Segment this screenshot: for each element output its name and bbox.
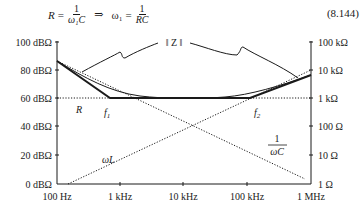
inverse-omega-c-label: 1 ωC [268, 133, 287, 157]
svg-text:0 dBΩ: 0 dBΩ [25, 179, 52, 190]
svg-text:10 kΩ: 10 kΩ [318, 65, 343, 76]
svg-text:100 Hz: 100 Hz [42, 191, 72, 202]
svg-text:100 kΩ: 100 kΩ [318, 37, 348, 48]
svg-text:1 Ω: 1 Ω [318, 179, 333, 190]
left-y-tick-labels: 100 dBΩ 80 dBΩ 60 dBΩ 40 dBΩ 20 dBΩ 0 dB… [15, 37, 52, 190]
svg-text:ωC: ωC [270, 146, 284, 157]
z-magnitude-curve [57, 61, 311, 98]
x-tick-labels: 100 Hz 1 kHz 10 kHz 100 kHz 1 MHz [42, 191, 325, 202]
svg-text:1: 1 [275, 133, 280, 144]
svg-text:100 kHz: 100 kHz [230, 191, 265, 202]
svg-text:80 dBΩ: 80 dBΩ [20, 65, 52, 76]
f1-label: f1 [104, 107, 110, 120]
omega-l-label: ωL [102, 154, 115, 165]
svg-text:100 dBΩ: 100 dBΩ [15, 37, 52, 48]
svg-text:60 dBΩ: 60 dBΩ [20, 93, 52, 104]
f2-label: f2 [254, 107, 261, 120]
svg-text:10 kHz: 10 kHz [168, 191, 198, 202]
svg-text:40 dBΩ: 40 dBΩ [20, 121, 52, 132]
svg-text:1 kΩ: 1 kΩ [318, 93, 338, 104]
svg-text:1 MHz: 1 MHz [297, 191, 326, 202]
z-pointer-left [82, 43, 158, 72]
dotted-asymptotes [57, 61, 311, 184]
axes [55, 41, 313, 186]
z-pointer-right [190, 43, 298, 78]
svg-text:10 Ω: 10 Ω [318, 150, 338, 161]
impedance-bode-chart: 100 dBΩ 80 dBΩ 60 dBΩ 40 dBΩ 20 dBΩ 0 dB… [0, 0, 363, 210]
z-label: ‖ Z ‖ [166, 37, 183, 48]
r-label: R [75, 104, 82, 115]
right-y-tick-labels: 100 kΩ 10 kΩ 1 kΩ 100 Ω 10 Ω 1 Ω [318, 37, 348, 190]
svg-text:100 Ω: 100 Ω [318, 121, 343, 132]
inverse-omega-c-line [57, 61, 305, 179]
svg-text:1 kHz: 1 kHz [108, 191, 133, 202]
svg-text:20 dBΩ: 20 dBΩ [20, 150, 52, 161]
